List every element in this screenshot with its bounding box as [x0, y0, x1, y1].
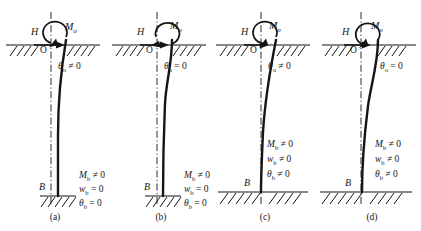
ground-hatching-right: [277, 46, 305, 56]
ground-hatching-left: [325, 46, 353, 56]
ground-hatching-right: [378, 46, 406, 56]
caption-c: (c): [260, 213, 271, 223]
moment-label-c: Mo: [269, 21, 281, 34]
load-label-d: H: [342, 27, 349, 37]
ground-hatching-right: [173, 46, 201, 56]
tip-condition-c-1: wb ≠ 0: [267, 155, 291, 166]
panel-c-drawing: [212, 0, 318, 231]
tip-condition-b-1: wb = 0: [184, 185, 208, 196]
bedrock-hatching-left: [322, 193, 362, 204]
origin-label-d: O: [350, 46, 357, 56]
base-label-d: B: [345, 178, 351, 188]
lateral-load-arrowhead: [160, 41, 169, 48]
bedrock-hatching-left: [220, 193, 260, 204]
tip-condition-a-1: wb = 0: [79, 185, 103, 196]
origin-label-b: O: [146, 46, 153, 56]
tip-condition-c-0: Mb ≠ 0: [267, 140, 293, 151]
base-label-a: B: [39, 182, 45, 192]
head-condition-a: θo ≠ 0: [58, 62, 81, 73]
tip-condition-d-0: Mb ≠ 0: [375, 140, 401, 151]
head-condition-d: θo = 0: [380, 62, 403, 73]
moment-label-a: Mo: [65, 22, 77, 35]
origin-label-c: O: [250, 46, 257, 56]
ground-hatching-left: [220, 46, 248, 56]
head-condition-c: θo ≠ 0: [268, 62, 291, 73]
panel-c: H O Mo θo ≠ 0 B Mb ≠ 0 wb ≠ 0 θb ≠ 0 (c): [212, 0, 318, 231]
moment-label-b: Mo: [170, 21, 182, 34]
ground-hatching-left: [10, 46, 38, 56]
bedrock-hatching-right: [269, 193, 301, 204]
load-label-a: H: [31, 27, 38, 37]
origin-label-a: O: [40, 46, 47, 56]
moment-label-d: Mo: [371, 21, 383, 34]
tip-condition-b-2: θb = 0: [184, 199, 207, 210]
tip-condition-b-0: Mb ≠ 0: [184, 171, 210, 182]
panel-d: H O Mo θo = 0 B Mb ≠ 0 wb ≠ 0 θb ≠ 0 (d): [318, 0, 421, 231]
bedrock-hatching-right: [370, 193, 402, 204]
tip-condition-d-1: wb ≠ 0: [375, 155, 399, 166]
caption-a: (a): [50, 213, 61, 223]
panel-b: H O Mo θo = 0 B Mb ≠ 0 wb = 0 θb = 0 (b): [106, 0, 212, 231]
base-label-c: B: [244, 178, 250, 188]
tip-condition-a-2: θb = 0: [79, 199, 102, 210]
moment-arc: [43, 22, 67, 43]
load-label-b: H: [137, 27, 144, 37]
base-label-b: B: [144, 182, 150, 192]
panel-d-drawing: [318, 0, 421, 231]
ground-hatching-left: [116, 46, 144, 56]
base-hatching: [41, 197, 76, 207]
ground-hatching-right: [67, 46, 95, 56]
caption-d: (d): [366, 213, 377, 223]
panel-a: H O Mo θo ≠ 0 B Mb ≠ 0 wb = 0 θb = 0 (a): [0, 0, 106, 231]
caption-b: (b): [155, 213, 166, 223]
base-hatching: [146, 197, 181, 207]
tip-condition-a-0: Mb ≠ 0: [79, 171, 105, 182]
tip-condition-d-2: θb ≠ 0: [375, 170, 398, 181]
tip-condition-c-2: θb ≠ 0: [267, 170, 290, 181]
head-condition-b: θo = 0: [164, 62, 187, 73]
figure-pile-boundary-conditions: H O Mo θo ≠ 0 B Mb ≠ 0 wb = 0 θb = 0 (a): [0, 0, 421, 231]
load-label-c: H: [241, 27, 248, 37]
